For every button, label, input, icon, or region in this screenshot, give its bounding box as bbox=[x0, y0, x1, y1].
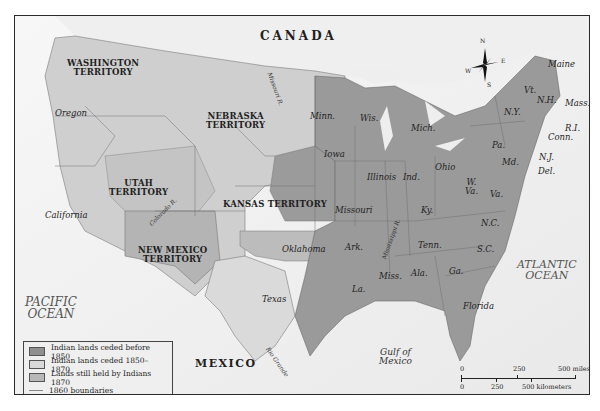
label-mexico: MEXICO bbox=[195, 358, 257, 369]
label-atlantic-ocean: ATLANTIC OCEAN bbox=[517, 259, 577, 281]
label-washington-territory: WASHINGTON TERRITORY bbox=[67, 59, 139, 77]
scale-miles-0: 0 bbox=[460, 366, 464, 373]
label-tenn: Tenn. bbox=[418, 241, 442, 250]
compass-e: E bbox=[501, 58, 505, 64]
label-nebraska-territory: NEBRASKA TERRITORY bbox=[206, 112, 265, 130]
scale-tick bbox=[517, 375, 518, 379]
label-del: Del. bbox=[538, 167, 555, 176]
label-kansas-territory: KANSAS TERRITORY bbox=[223, 200, 327, 209]
scale-tick bbox=[575, 375, 576, 379]
label-illinois: Illinois bbox=[367, 173, 396, 182]
label-va: Va. bbox=[490, 190, 503, 199]
legend-swatch bbox=[29, 347, 45, 356]
legend-line bbox=[29, 390, 43, 391]
scale-miles-500: 500 miles bbox=[558, 366, 590, 373]
label-texas: Texas bbox=[262, 295, 286, 304]
label-ky: Ky. bbox=[421, 206, 433, 215]
label-gulf-of-mexico: Gulf of Mexico bbox=[379, 348, 412, 366]
label-sc: S.C. bbox=[477, 245, 494, 254]
compass-rose: N S E W bbox=[465, 44, 505, 90]
label-maine: Maine bbox=[548, 60, 575, 69]
label-california: California bbox=[45, 211, 88, 220]
map-frame: CANADA MEXICO PACIFIC OCEAN ATLANTIC OCE… bbox=[14, 15, 590, 395]
label-pacific-ocean: PACIFIC OCEAN bbox=[25, 296, 77, 320]
compass-s: S bbox=[487, 82, 491, 88]
label-wva: W. Va. bbox=[465, 178, 478, 195]
legend-item-held-1870: Lands still held by Indians 1870 bbox=[29, 371, 167, 384]
compass-star-icon bbox=[465, 44, 505, 86]
label-mass: Mass. bbox=[565, 99, 590, 108]
label-oregon: Oregon bbox=[55, 109, 87, 118]
legend-swatch bbox=[29, 373, 45, 382]
label-ind: Ind. bbox=[403, 173, 420, 182]
label-oklahoma: Oklahoma bbox=[282, 245, 326, 254]
label-md: Md. bbox=[502, 158, 519, 167]
scale-km-250: 250 bbox=[491, 384, 503, 391]
scale-miles-250: 250 bbox=[513, 366, 525, 373]
label-ala: Ala. bbox=[411, 269, 428, 278]
label-vt: Vt. bbox=[524, 86, 536, 95]
compass-n: N bbox=[480, 38, 485, 44]
label-pa: Pa. bbox=[492, 141, 505, 150]
scale-bar: 0 250 500 miles 0 250 500 kilometers bbox=[460, 366, 590, 395]
scale-km-0: 0 bbox=[460, 384, 464, 391]
label-utah-territory: UTAH TERRITORY bbox=[109, 179, 168, 197]
compass-w: W bbox=[465, 68, 471, 74]
label-minn: Minn. bbox=[310, 112, 335, 121]
legend-label: 1860 boundaries bbox=[49, 386, 113, 395]
label-ny: N.Y. bbox=[504, 108, 521, 117]
label-miss: Miss. bbox=[379, 272, 402, 281]
label-ga: Ga. bbox=[449, 267, 464, 276]
scale-tick bbox=[531, 378, 532, 382]
label-nc: N.C. bbox=[481, 219, 500, 228]
label-missouri: Missouri bbox=[335, 206, 373, 215]
label-ohio: Ohio bbox=[435, 163, 455, 172]
legend-label: Lands still held by Indians 1870 bbox=[51, 369, 167, 387]
map-legend: Indian lands ceded before 1850 Indian la… bbox=[23, 341, 173, 395]
scale-tick bbox=[496, 378, 497, 382]
label-la: La. bbox=[352, 285, 365, 294]
label-nj: N.J. bbox=[539, 153, 554, 162]
label-mich: Mich. bbox=[411, 124, 435, 133]
label-ark: Ark. bbox=[345, 243, 363, 252]
scale-tick bbox=[461, 375, 462, 382]
label-nh: N.H. bbox=[537, 96, 557, 105]
label-conn: Conn. bbox=[548, 133, 573, 142]
legend-swatch bbox=[29, 360, 45, 369]
label-new-mexico-territory: NEW MEXICO TERRITORY bbox=[138, 246, 207, 264]
label-iowa: Iowa bbox=[324, 150, 345, 159]
label-wis: Wis. bbox=[360, 114, 378, 123]
label-ri: R.I. bbox=[565, 124, 580, 133]
scale-km-500: 500 kilometers bbox=[522, 384, 571, 391]
label-florida: Florida bbox=[463, 302, 494, 311]
scale-line bbox=[461, 378, 576, 379]
label-canada: CANADA bbox=[260, 30, 337, 42]
